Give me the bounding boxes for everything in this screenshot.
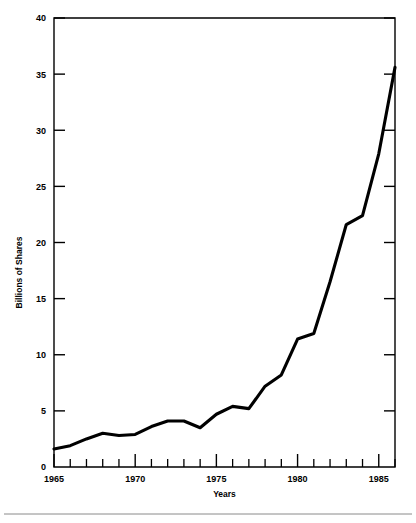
x-axis-tick-label: 1970 (125, 474, 145, 484)
x-axis-tick-label: 1985 (369, 474, 389, 484)
plot-frame (54, 18, 395, 467)
y-axis-tick-label: 10 (36, 350, 46, 360)
line-chart: 051015202530354019651970197519801985Year… (0, 0, 416, 523)
y-axis-tick-label: 35 (36, 70, 46, 80)
y-axis-tick-label: 25 (36, 182, 46, 192)
y-axis-tick-label: 5 (41, 406, 46, 416)
y-axis-tick-label: 40 (36, 13, 46, 23)
y-axis-tick-label: 0 (41, 462, 46, 472)
x-axis-tick-label: 1965 (44, 474, 64, 484)
x-axis-title: Years (213, 489, 236, 499)
y-axis-tick-label: 20 (36, 238, 46, 248)
y-axis-tick-label: 15 (36, 294, 46, 304)
y-axis-title: Billions of Shares (14, 236, 24, 308)
data-series-line (54, 67, 395, 449)
x-axis-tick-label: 1975 (206, 474, 226, 484)
chart-container: 051015202530354019651970197519801985Year… (0, 0, 416, 523)
x-axis-tick-label: 1980 (288, 474, 308, 484)
y-axis-tick-label: 30 (36, 126, 46, 136)
